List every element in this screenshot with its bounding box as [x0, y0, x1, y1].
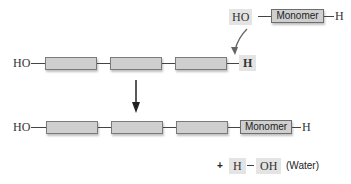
polymer-unit — [45, 57, 97, 70]
bond-line — [31, 63, 45, 64]
bond-line — [162, 63, 175, 64]
curved-arrow-icon — [226, 26, 256, 58]
bond-line — [97, 63, 110, 64]
bond-line — [98, 127, 111, 128]
water-oh: OH — [256, 158, 281, 174]
bond-line — [292, 127, 301, 128]
bond-line — [31, 127, 46, 128]
bond-line — [163, 127, 176, 128]
polymer-h-group: H — [239, 55, 256, 71]
product-unit — [176, 121, 228, 134]
polymer-unit — [110, 57, 162, 70]
water-h: H — [229, 158, 246, 174]
polymer-ho-group: HO — [13, 56, 30, 70]
bond-line — [227, 63, 239, 64]
bond-line — [258, 16, 271, 17]
monomer-ho-group: HO — [229, 9, 252, 25]
product-unit — [111, 121, 163, 134]
product-h-group: H — [302, 120, 311, 134]
water-label: (Water) — [286, 160, 319, 172]
down-arrow-icon — [130, 80, 142, 114]
bond-line — [247, 165, 254, 166]
product-unit — [46, 121, 98, 134]
product-monomer-unit: Monomer — [240, 120, 292, 134]
bond-line — [228, 127, 240, 128]
monomer-unit: Monomer — [271, 9, 324, 23]
plus-sign: + — [217, 160, 223, 172]
bond-line — [324, 16, 334, 17]
polymer-unit — [175, 57, 227, 70]
product-ho-group: HO — [13, 120, 30, 134]
monomer-h-group: H — [335, 9, 344, 23]
